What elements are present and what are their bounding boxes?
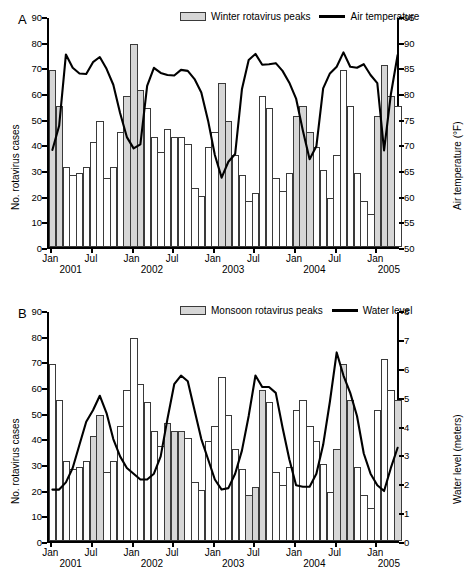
panel-b-left-tick: 60 <box>16 383 42 394</box>
panel-b-right-tick: 7 <box>404 335 430 346</box>
tick-mark <box>294 249 296 253</box>
tick-mark <box>399 427 404 429</box>
tick-mark <box>42 197 47 199</box>
tick-mark <box>335 249 337 253</box>
tick-mark <box>42 248 47 250</box>
tick-mark <box>132 249 134 253</box>
tick-mark <box>399 248 404 250</box>
tick-mark <box>399 171 404 173</box>
panel-b-overlay-line <box>49 312 397 541</box>
panel-a-left-tick: 80 <box>16 38 42 49</box>
x-tick-label: Jan <box>36 547 64 558</box>
tick-mark <box>399 398 404 400</box>
x-year-label: 2002 <box>136 558 168 569</box>
panel-b-right-tick: 3 <box>404 450 430 461</box>
panel-b-right-tick: 0 <box>404 537 430 548</box>
x-tick-label: Jul <box>158 253 186 264</box>
x-tick-label: Jul <box>321 253 349 264</box>
tick-mark <box>42 120 47 122</box>
panel-b-right-tick: 8 <box>404 306 430 317</box>
tick-mark <box>91 249 93 253</box>
x-tick-label: Jan <box>361 253 389 264</box>
x-tick-label: Jul <box>239 547 267 558</box>
tick-mark <box>42 17 47 19</box>
panel-b-left-tick: 40 <box>16 434 42 445</box>
tick-mark <box>42 439 47 441</box>
x-tick-label: Jan <box>118 547 146 558</box>
tick-mark <box>375 543 377 547</box>
panel-a-right-tick: 55 <box>404 217 430 228</box>
x-tick-label: Jan <box>199 547 227 558</box>
tick-mark <box>42 68 47 70</box>
panel-a-right-tick: 50 <box>404 243 430 254</box>
x-tick-label: Jan <box>280 547 308 558</box>
x-year-label: 2001 <box>55 558 87 569</box>
panel-a-right-tick: 60 <box>404 192 430 203</box>
panel-a-overlay-line <box>49 18 397 247</box>
tick-mark <box>42 362 47 364</box>
tick-mark <box>42 145 47 147</box>
tick-mark <box>399 513 404 515</box>
tick-mark <box>375 249 377 253</box>
tick-mark <box>42 516 47 518</box>
x-tick-label: Jan <box>280 253 308 264</box>
tick-mark <box>42 465 47 467</box>
panel-b-right-tick: 6 <box>404 364 430 375</box>
x-tick-label: Jul <box>77 547 105 558</box>
panel-b-right-axis-label: Water level (meters) <box>452 414 463 504</box>
tick-mark <box>399 222 404 224</box>
panel-a-right-tick: 70 <box>404 140 430 151</box>
x-year-label: 2002 <box>136 264 168 275</box>
panel-b-left-tick: 70 <box>16 357 42 368</box>
panel-b-left-tick: 20 <box>16 486 42 497</box>
x-year-label: 2004 <box>298 558 330 569</box>
tick-mark <box>399 17 404 19</box>
x-tick-label: Jul <box>321 547 349 558</box>
panel-a-plot-area <box>47 18 399 249</box>
panel-a-left-tick: 30 <box>16 166 42 177</box>
tick-mark <box>50 543 52 547</box>
x-year-label: 2003 <box>217 558 249 569</box>
tick-mark <box>399 120 404 122</box>
x-tick-label: Jul <box>158 547 186 558</box>
panel-b-left-tick: 90 <box>16 306 42 317</box>
x-year-label: 2003 <box>217 264 249 275</box>
panel-a-right-tick: 75 <box>404 115 430 126</box>
x-year-label: 2001 <box>55 264 87 275</box>
tick-mark <box>50 249 52 253</box>
tick-mark <box>399 68 404 70</box>
panel-b: B Monsoon rotavirus peaks Water level No… <box>0 294 467 588</box>
tick-mark <box>399 197 404 199</box>
panel-a-left-tick: 10 <box>16 217 42 228</box>
tick-mark <box>91 543 93 547</box>
panel-b-left-tick: 10 <box>16 511 42 522</box>
x-tick-label: Jan <box>199 253 227 264</box>
tick-mark <box>399 455 404 457</box>
panel-a-right-tick: 80 <box>404 89 430 100</box>
tick-mark <box>42 171 47 173</box>
x-year-label: 2004 <box>298 264 330 275</box>
panel-a-right-tick: 85 <box>404 63 430 74</box>
tick-mark <box>335 543 337 547</box>
panel-a-left-tick: 70 <box>16 63 42 74</box>
panel-b-right-tick: 5 <box>404 393 430 404</box>
tick-mark <box>172 249 174 253</box>
tick-mark <box>42 414 47 416</box>
x-year-label: 2005 <box>373 558 405 569</box>
panel-a-left-tick: 20 <box>16 192 42 203</box>
x-tick-label: Jul <box>77 253 105 264</box>
tick-mark <box>132 543 134 547</box>
tick-mark <box>399 311 404 313</box>
tick-mark <box>213 249 215 253</box>
panel-a-left-tick: 60 <box>16 89 42 100</box>
panel-b-right-tick: 1 <box>404 508 430 519</box>
panel-b-left-tick: 80 <box>16 332 42 343</box>
x-tick-label: Jan <box>118 253 146 264</box>
x-tick-label: Jul <box>239 253 267 264</box>
panel-b-left-tick: 30 <box>16 460 42 471</box>
x-tick-label: Jan <box>361 547 389 558</box>
tick-mark <box>42 94 47 96</box>
tick-mark <box>42 43 47 45</box>
panel-a-left-tick: 40 <box>16 140 42 151</box>
tick-mark <box>294 543 296 547</box>
